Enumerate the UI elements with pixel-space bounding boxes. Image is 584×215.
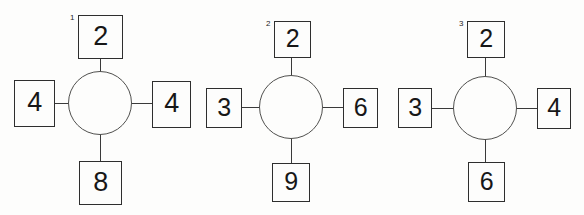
diagram-canvas: 244812369223463 xyxy=(0,0,584,215)
number-wheel-figure: 23463 xyxy=(0,0,584,215)
wheel-cell-value: 2 xyxy=(479,26,492,51)
spoke-left xyxy=(432,108,455,109)
wheel-cell-right[interactable]: 4 xyxy=(537,88,571,129)
wheel-cell-value: 6 xyxy=(480,169,493,194)
wheel-cell-value: 4 xyxy=(547,95,560,120)
wheel-cell-left[interactable]: 3 xyxy=(398,88,432,128)
figure-index-label: 3 xyxy=(459,20,463,28)
wheel-cell-bottom[interactable]: 6 xyxy=(468,162,505,202)
wheel-cell-top[interactable]: 2 xyxy=(467,21,505,58)
spoke-bottom xyxy=(485,138,486,162)
spoke-right xyxy=(515,108,537,109)
wheel-cell-value: 3 xyxy=(408,95,421,120)
wheel-hub-circle xyxy=(453,76,517,140)
spoke-top xyxy=(485,58,486,78)
